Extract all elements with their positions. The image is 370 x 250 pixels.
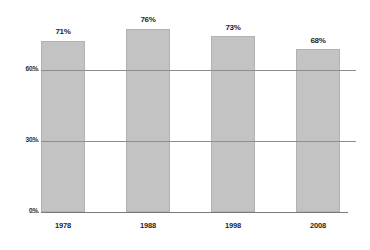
bar-chart: 60% 30% 0% 71% 76% 73% 68% 1978 1988 199… <box>0 0 370 250</box>
x-axis-label-1988: 1988 <box>126 222 170 230</box>
y-tick-0 <box>32 212 39 213</box>
bar-1988 <box>126 29 170 212</box>
y-tick-right-30 <box>348 141 356 142</box>
y-tick-30 <box>32 141 39 142</box>
gridline-30 <box>41 141 348 142</box>
x-axis-label-1998: 1998 <box>211 222 255 230</box>
bar-1978 <box>41 41 85 212</box>
y-tick-60 <box>32 70 39 71</box>
x-axis-baseline <box>41 212 348 213</box>
bar-1998 <box>211 36 255 212</box>
plot-area <box>41 18 348 212</box>
y-tick-right-60 <box>348 70 356 71</box>
x-axis-label-2008: 2008 <box>296 222 340 230</box>
x-axis-label-1978: 1978 <box>41 222 85 230</box>
bar-2008 <box>296 49 340 212</box>
gridline-60 <box>41 70 348 71</box>
